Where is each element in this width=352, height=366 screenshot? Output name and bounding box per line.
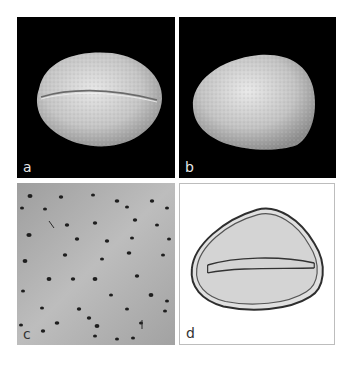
panel-c-sem-surface-detail: c: [17, 183, 175, 345]
panel-label-a: a: [23, 160, 32, 174]
panel-d-light-micrograph: d: [179, 183, 335, 345]
panel-label-d: d: [186, 326, 195, 340]
panel-label-b: b: [185, 160, 194, 174]
panel-label-c: c: [23, 327, 31, 341]
pollen-grain-image-a: [17, 17, 175, 178]
panel-b-sem-polar-view: b: [179, 17, 336, 178]
pollen-grain-image-b: [179, 17, 336, 178]
panel-a-sem-equatorial-view: a: [17, 17, 175, 178]
exine-surface-image-c: [17, 183, 175, 345]
pollen-outline-image-d: [180, 184, 334, 344]
